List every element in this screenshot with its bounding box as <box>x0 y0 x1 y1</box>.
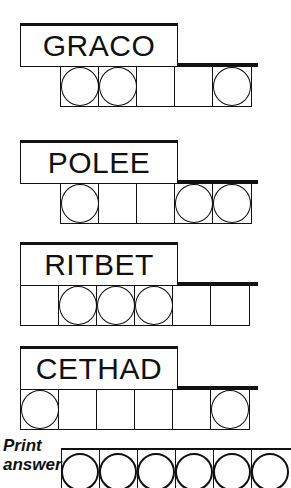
letter-cell[interactable] <box>134 389 174 430</box>
letter-cell[interactable] <box>136 66 176 107</box>
scrambled-word-label: CETHAD <box>20 346 178 390</box>
letter-cell-circled[interactable] <box>212 66 252 107</box>
letter-cell[interactable] <box>20 285 60 326</box>
letter-cell[interactable] <box>136 183 176 224</box>
letter-cell[interactable] <box>98 183 138 224</box>
letter-cell-circled[interactable] <box>134 285 174 326</box>
letter-cell[interactable] <box>58 389 98 430</box>
prompt-line-2: answer <box>3 455 62 474</box>
letter-cells <box>60 183 252 224</box>
letter-cell-circled[interactable] <box>96 285 136 326</box>
answer-cell[interactable] <box>175 448 215 488</box>
letter-cell[interactable] <box>210 285 250 326</box>
answer-cell[interactable] <box>61 448 101 488</box>
answer-cell[interactable] <box>213 448 253 488</box>
scrambled-word-label: POLEE <box>20 140 178 184</box>
scrambled-word-label: GRACO <box>20 23 178 67</box>
scrambled-word-label: RITBET <box>20 242 178 286</box>
letter-cell[interactable] <box>96 389 136 430</box>
letter-cell-circled[interactable] <box>212 183 252 224</box>
answer-cell[interactable] <box>251 448 291 488</box>
letter-cells <box>20 285 250 326</box>
answer-cell[interactable] <box>99 448 139 488</box>
letter-cell-circled[interactable] <box>60 183 100 224</box>
letter-cell[interactable] <box>172 389 212 430</box>
letter-cell-circled[interactable] <box>60 66 100 107</box>
letter-cell-circled[interactable] <box>210 389 250 430</box>
letter-cell-circled[interactable] <box>20 389 60 430</box>
letter-cell-circled[interactable] <box>58 285 98 326</box>
letter-cells <box>20 389 250 430</box>
letter-cell-circled[interactable] <box>98 66 138 107</box>
prompt-line-1: Print <box>3 436 62 455</box>
letter-cell-circled[interactable] <box>174 183 214 224</box>
answer-cells <box>61 448 291 488</box>
letter-cell[interactable] <box>174 66 214 107</box>
print-answer-prompt: Print answer <box>3 436 62 474</box>
letter-cell[interactable] <box>172 285 212 326</box>
answer-cell[interactable] <box>137 448 177 488</box>
letter-cells <box>60 66 252 107</box>
